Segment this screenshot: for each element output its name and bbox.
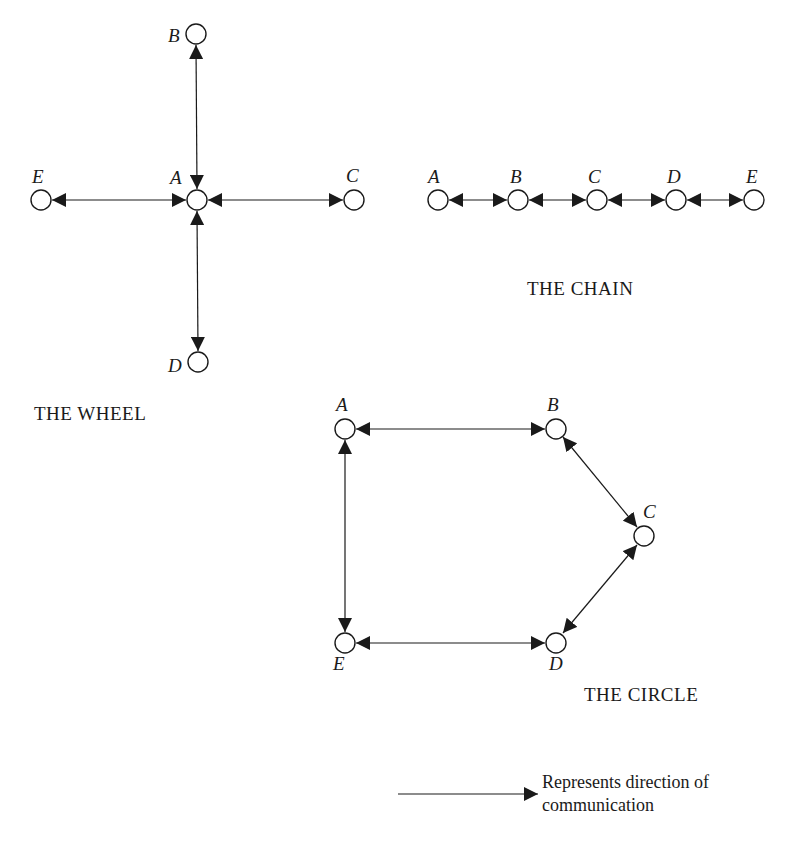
circle-node-d <box>546 633 566 653</box>
wheel-network: A B C D E THE WHEEL <box>31 24 364 424</box>
communication-networks-diagram: A B C D E THE WHEEL A B C D E THE CHAIN <box>0 0 793 844</box>
circle-label-c: C <box>643 501 656 522</box>
chain-label-d: D <box>666 166 681 187</box>
wheel-node-c <box>344 190 364 210</box>
circle-node-e <box>335 633 355 653</box>
chain-node-b <box>508 190 528 210</box>
legend-text-line2: communication <box>542 795 654 815</box>
wheel-edge-a-d <box>197 211 198 351</box>
chain-label-c: C <box>588 166 601 187</box>
circle-node-b <box>546 419 566 439</box>
wheel-title: THE WHEEL <box>34 403 146 424</box>
wheel-label-a: A <box>168 167 182 188</box>
chain-label-b: B <box>510 166 522 187</box>
wheel-node-d <box>188 352 208 372</box>
chain-node-d <box>666 190 686 210</box>
circle-label-d: D <box>548 653 563 674</box>
wheel-label-e: E <box>31 166 44 187</box>
circle-network: A B C D E THE CIRCLE <box>332 394 698 705</box>
chain-node-a <box>428 190 448 210</box>
wheel-edge-a-b <box>196 45 197 189</box>
circle-node-a <box>335 419 355 439</box>
wheel-label-b: B <box>168 25 180 46</box>
legend: Represents direction of communication <box>398 772 709 815</box>
wheel-node-a <box>187 190 207 210</box>
legend-text-line1: Represents direction of <box>542 772 709 792</box>
circle-edge-b-c <box>563 437 637 527</box>
chain-label-a: A <box>426 166 440 187</box>
chain-node-c <box>587 190 607 210</box>
wheel-label-c: C <box>346 165 359 186</box>
wheel-node-b <box>186 24 206 44</box>
circle-edge-c-d <box>563 545 637 633</box>
chain-title: THE CHAIN <box>527 278 633 299</box>
chain-label-e: E <box>745 166 758 187</box>
circle-label-e: E <box>332 653 345 674</box>
chain-network: A B C D E THE CHAIN <box>426 166 764 299</box>
circle-label-b: B <box>547 394 559 415</box>
wheel-label-d: D <box>167 355 182 376</box>
circle-node-c <box>634 526 654 546</box>
circle-title: THE CIRCLE <box>584 684 698 705</box>
circle-label-a: A <box>334 394 348 415</box>
chain-node-e <box>744 190 764 210</box>
wheel-node-e <box>31 190 51 210</box>
